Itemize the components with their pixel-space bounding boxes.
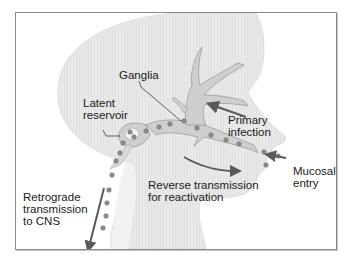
diagram-frame: Ganglia Latent reservoir Primary infecti… [15,12,337,250]
primary-infection-label: Primary infection [228,114,271,138]
reverse-transmission-label: Reverse transmission for reactivation [148,179,259,203]
latent-reservoir-label: Latent reservoir [83,97,128,121]
ganglia-label: Ganglia [119,69,159,81]
retrograde-transmission-label: Retrograde transmission to CNS [23,191,88,227]
retrograde-arrow [89,188,104,247]
mucosal-entry-label: Mucosal entry [293,165,336,189]
